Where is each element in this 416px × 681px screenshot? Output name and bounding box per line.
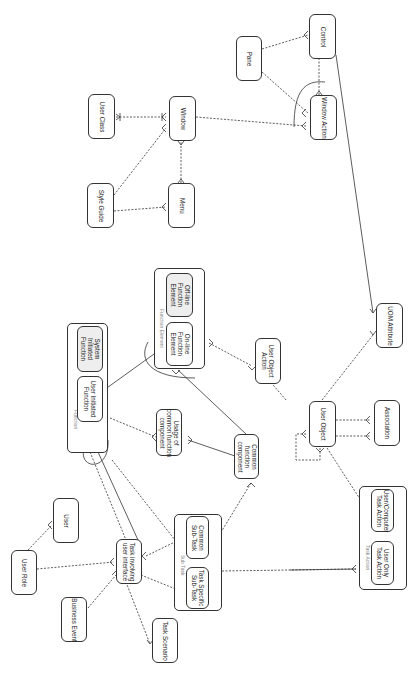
entity-label: Menu [178, 198, 185, 214]
entity-user-object[interactable]: User Object [309, 401, 336, 447]
group-label-function-element: Function Element [159, 309, 165, 348]
entity-common-sub-task[interactable]: Common Sub-Task [186, 516, 209, 559]
entity-task-scenario[interactable]: Task Scenario [152, 618, 178, 663]
entity-business-event[interactable]: Business Event [61, 597, 87, 642]
entity-user-role[interactable]: User Role [11, 550, 37, 595]
entity-user-only-task-action[interactable]: User Only Task Action [371, 541, 394, 585]
entity-label: Control [319, 26, 326, 46]
entity-control[interactable]: Control [309, 14, 336, 59]
entity-off-line-function-element[interactable]: Off-line Function Element [166, 273, 193, 317]
entity-user[interactable]: User [53, 498, 79, 543]
entity-label: Window Action [320, 97, 327, 138]
entity-label: System Initiated Function [79, 337, 101, 361]
entity-label: Task involving user interface [122, 542, 136, 581]
entity-label: Off-line Function Element [169, 283, 191, 307]
entity-label: User Class [98, 101, 105, 132]
entity-label: User Initiated Function [83, 380, 97, 417]
entity-task-involving-user-interface[interactable]: Task involving user interface [116, 539, 142, 584]
entity-window-action[interactable]: Window Action [310, 95, 337, 140]
entity-label: User Only Task Action [375, 547, 389, 579]
entity-label: On-line Function Element [169, 332, 191, 356]
er-diagram: Function Function Element Sub Task Task … [0, 0, 416, 681]
entity-label: UOM Attribute [386, 306, 393, 346]
entity-label: Business Event [70, 598, 77, 641]
entity-label: Usage of common function component [158, 409, 180, 457]
entity-label: Pane [245, 51, 252, 66]
entity-user-object-action[interactable]: User Object Action [255, 338, 281, 384]
entity-uom-attribute[interactable]: UOM Attribute [376, 303, 403, 348]
entity-label: Association [383, 407, 390, 439]
entity-label: User Object [319, 407, 326, 440]
entity-label: Common function component [236, 441, 258, 472]
entity-window[interactable]: Window [169, 96, 196, 141]
entity-style-guide[interactable]: Style Guide [87, 183, 114, 228]
entity-user-computer-task-action[interactable]: User/Computer Task Action [371, 489, 394, 532]
entity-usage-of-common-function-component[interactable]: Usage of common function component [156, 409, 182, 456]
entity-label: User/Computer Task Action [375, 489, 389, 532]
entity-label: Task Scenario [161, 621, 168, 661]
entity-label: User Role [20, 559, 27, 587]
entity-association[interactable]: Association [374, 400, 400, 446]
entity-on-line-function-element[interactable]: On-line Function Element [166, 322, 193, 366]
entity-user-class[interactable]: User Class [88, 94, 115, 139]
entity-task-specific-sub-task[interactable]: Task Specific Sub-Task [186, 567, 209, 609]
entity-label: User [62, 514, 69, 527]
entity-menu[interactable]: Menu [168, 183, 195, 228]
entity-label: Task Specific Sub-Task [190, 570, 204, 607]
entity-label: User Object Action [261, 344, 275, 377]
entity-user-initiated-function[interactable]: User Initiated Function [77, 376, 103, 422]
entity-label: Style Guide [97, 189, 104, 222]
entity-system-initiated-function[interactable]: System Initiated Function [77, 326, 103, 372]
entity-label: Common Sub-Task [190, 524, 204, 550]
entity-common-function-component[interactable]: Common function component [234, 434, 259, 479]
entity-pane[interactable]: Pane [236, 36, 262, 81]
entity-label: Window [179, 107, 186, 129]
